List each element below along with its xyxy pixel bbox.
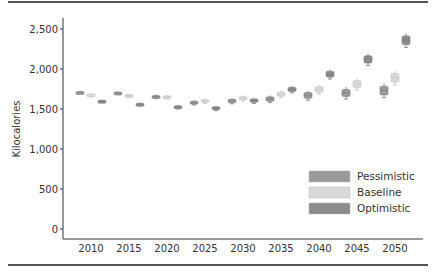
legend-swatch: [309, 187, 350, 198]
y-axis: 05001,0001,5002,0002,500: [29, 18, 63, 239]
y-tick-label: 0: [52, 224, 58, 235]
box-baseline-2015: [125, 94, 133, 98]
box-pessimistic-2030: [228, 98, 236, 104]
box-pessimistic-2015: [114, 91, 122, 95]
x-tick-label: 2030: [230, 243, 255, 254]
legend-swatch: [309, 203, 350, 214]
box-baseline-2030: [239, 95, 247, 101]
box-baseline-2045: [353, 78, 361, 90]
x-tick-label: 2015: [116, 243, 141, 254]
box-series: [76, 33, 410, 111]
box-pessimistic-2035: [266, 95, 274, 102]
x-tick-label: 2025: [192, 243, 217, 254]
box-pessimistic-2040: [304, 91, 312, 101]
x-tick-label: 2010: [78, 243, 103, 254]
box-optimistic-2035: [288, 86, 296, 93]
box-pessimistic-2025: [190, 100, 198, 105]
legend: PessimisticBaselineOptimistic: [309, 170, 415, 214]
y-tick-label: 2,000: [29, 64, 58, 75]
box-optimistic-2015: [136, 103, 144, 107]
box-optimistic-2030: [250, 98, 258, 104]
y-axis-title: Kilocalories: [11, 100, 22, 157]
box-optimistic-2040: [326, 69, 334, 79]
box-pessimistic-2050: [380, 83, 388, 97]
y-tick-label: 1,500: [29, 104, 58, 115]
legend-label: Optimistic: [357, 202, 411, 214]
box-baseline-2035: [277, 91, 285, 98]
box-baseline-2040: [315, 85, 323, 95]
box-pessimistic-2010: [76, 91, 84, 94]
legend-label: Baseline: [357, 186, 402, 198]
box-baseline-2050: [391, 71, 399, 85]
y-tick-label: 2,500: [29, 24, 58, 35]
legend-item-baseline: Baseline: [309, 186, 402, 198]
legend-label: Pessimistic: [357, 170, 415, 182]
y-tick-label: 1,000: [29, 144, 58, 155]
box-plot-chart: 05001,0001,5002,0002,500 201020152020202…: [0, 0, 433, 273]
box-optimistic-2050: [402, 33, 410, 47]
box-baseline-2025: [201, 99, 209, 104]
x-tick-label: 2035: [268, 243, 293, 254]
box-pessimistic-2045: [342, 87, 350, 99]
x-tick-label: 2045: [344, 243, 369, 254]
legend-swatch: [309, 171, 350, 182]
box-optimistic-2020: [174, 105, 182, 109]
x-tick-label: 2020: [154, 243, 179, 254]
box-optimistic-2025: [212, 106, 220, 111]
x-tick-label: 2050: [382, 243, 407, 254]
y-tick-label: 500: [39, 184, 58, 195]
x-axis: 201020152020202520302035204020452050: [63, 239, 423, 254]
box-optimistic-2045: [364, 53, 372, 65]
legend-item-optimistic: Optimistic: [309, 202, 411, 214]
box-baseline-2020: [163, 95, 171, 99]
legend-item-pessimistic: Pessimistic: [309, 170, 415, 182]
box-pessimistic-2020: [152, 95, 160, 99]
box-optimistic-2010: [98, 100, 106, 103]
x-tick-label: 2040: [306, 243, 331, 254]
box-baseline-2010: [87, 93, 95, 96]
